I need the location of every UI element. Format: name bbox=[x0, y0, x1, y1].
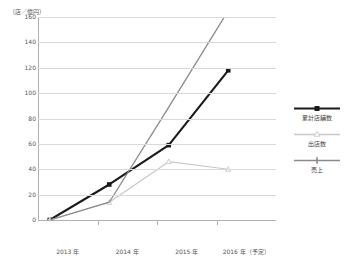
data-point-marker bbox=[107, 182, 112, 187]
x-axis-tick bbox=[98, 220, 99, 225]
y-axis-tick-labels: 160140120100806040200 bbox=[6, 17, 36, 220]
y-axis-tick-label: 60 bbox=[10, 141, 36, 147]
legend-swatch bbox=[294, 130, 340, 139]
x-axis-tick bbox=[157, 220, 158, 225]
y-axis-tick-label: 140 bbox=[10, 39, 36, 45]
x-axis-tick-label: 2014 年 bbox=[116, 247, 139, 256]
legend-item[interactable]: 出店数 bbox=[286, 130, 347, 147]
legend-item[interactable]: 累計店舗数 bbox=[286, 104, 347, 121]
legend-item[interactable]: 売上 bbox=[286, 156, 347, 173]
legend-label: 累計店舗数 bbox=[286, 114, 347, 121]
line-chart: （店／億円） 160140120100806040200 2013 年2014 … bbox=[0, 0, 347, 267]
y-axis-tick-label: 160 bbox=[10, 14, 36, 20]
y-axis-tick-label: 80 bbox=[10, 116, 36, 122]
y-axis-tick-label: 120 bbox=[10, 65, 36, 71]
gridline bbox=[38, 17, 276, 18]
series-line bbox=[50, 162, 229, 220]
gridline bbox=[38, 93, 276, 94]
gridline bbox=[38, 68, 276, 69]
y-axis-tick-label: 20 bbox=[10, 192, 36, 198]
legend-swatch bbox=[294, 156, 340, 165]
x-axis-tick-label: 2016 年（予定） bbox=[223, 247, 270, 256]
gridline bbox=[38, 169, 276, 170]
plot-area bbox=[38, 17, 276, 220]
x-axis-tick-label: 2013 年 bbox=[56, 247, 79, 256]
y-axis-tick-label: 100 bbox=[10, 90, 36, 96]
x-axis-tick bbox=[217, 220, 218, 225]
x-axis-tick-labels: 2013 年2014 年2015 年2016 年（予定） bbox=[38, 247, 276, 259]
legend-label: 出店数 bbox=[286, 140, 347, 147]
chart-legend: 累計店舗数出店数売上 bbox=[286, 104, 347, 182]
gridline bbox=[38, 42, 276, 43]
y-axis-tick-label: 0 bbox=[10, 217, 36, 223]
x-axis-tick-label: 2015 年 bbox=[175, 247, 198, 256]
y-axis-tick-label: 40 bbox=[10, 166, 36, 172]
legend-label: 売上 bbox=[286, 166, 347, 173]
legend-swatch bbox=[294, 104, 340, 113]
gridline bbox=[38, 195, 276, 196]
gridline bbox=[38, 119, 276, 120]
gridline bbox=[38, 144, 276, 145]
